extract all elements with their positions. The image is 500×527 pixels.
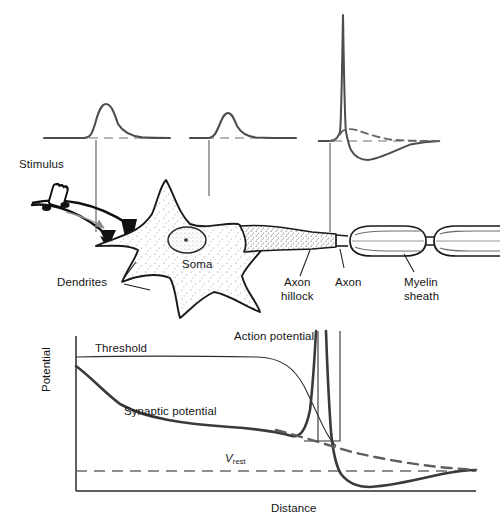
- trace-axon: [318, 15, 440, 232]
- trace-soma: [190, 113, 296, 196]
- leader-axon-hillock: [300, 250, 310, 276]
- vrest-label: Vrest: [225, 452, 246, 464]
- dendrites-label: Dendrites: [57, 276, 107, 288]
- myelin-sheath-label-line2: sheath: [404, 290, 439, 302]
- myelin-sheath-label-line1: Myelin: [404, 276, 438, 288]
- graph-y-axis-label: Potential: [40, 302, 52, 392]
- myelin-lamella-2a: [440, 231, 500, 234]
- electrode-contact-right: [60, 202, 69, 208]
- node-of-ranvier: [426, 237, 434, 245]
- leader-dendrites-lower: [124, 284, 150, 290]
- myelin-internode-2: [434, 226, 500, 256]
- synaptic-potential-label: Synaptic potential: [124, 405, 217, 417]
- graph-x-axis-label: Distance: [271, 502, 317, 514]
- leader-myelin-sheath: [404, 254, 414, 272]
- soma-label: Soma: [182, 258, 212, 270]
- axon-hillock-label-line1: Axon: [284, 276, 311, 288]
- stimulus-label: Stimulus: [19, 158, 64, 170]
- action-potential-label: Action potential: [234, 330, 314, 342]
- vrest-subscript: rest: [233, 457, 246, 466]
- action-potential-descending-limb: [326, 331, 476, 487]
- epsp-waveform-soma: [190, 113, 296, 138]
- electrode-contact-left: [42, 205, 51, 211]
- vrest-symbol: V: [225, 452, 233, 464]
- stimulus-apparatus: [31, 183, 138, 243]
- decremental-conduction-curve: [276, 430, 476, 470]
- myelin-lamella-2b: [440, 248, 500, 251]
- axon-initial-segment-top: [336, 235, 348, 236]
- threshold-label: Threshold: [95, 342, 147, 354]
- axon-hillock-label-line2: hillock: [281, 290, 314, 302]
- leader-axon: [340, 249, 344, 268]
- nucleolus: [184, 238, 188, 242]
- axon-hillock: [240, 225, 336, 252]
- epsp-waveform-dendrite: [44, 104, 170, 138]
- myelin-internode-1: [350, 226, 426, 256]
- neuron-signal-figure: [0, 0, 500, 527]
- axon-label: Axon: [335, 276, 362, 288]
